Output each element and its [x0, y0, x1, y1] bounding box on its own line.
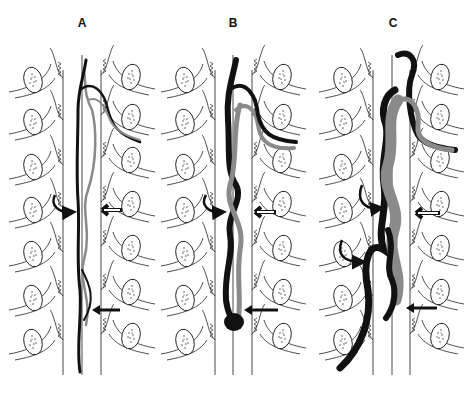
black-arrow-icon — [92, 305, 120, 315]
panel-c — [319, 45, 464, 375]
black-arrow-icon — [406, 303, 437, 313]
nerve-roots-right — [252, 45, 306, 354]
nerve-roots-left — [161, 48, 215, 360]
cord-lines — [63, 55, 101, 375]
spinal-diagram — [0, 0, 473, 396]
curved-arrow-icon — [204, 195, 222, 212]
curved-arrow-icon — [360, 185, 380, 208]
nerve-roots-right — [101, 45, 155, 354]
panel-a — [9, 45, 155, 375]
arrows — [54, 195, 122, 315]
panel-b — [161, 45, 306, 375]
